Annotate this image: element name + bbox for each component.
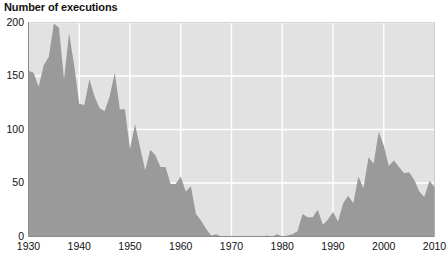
plot-svg <box>0 0 448 260</box>
x-axis-tick-label: 1950 <box>110 240 150 252</box>
x-axis-tick-label: 1940 <box>59 240 99 252</box>
y-axis-tick-label: 100 <box>0 123 24 135</box>
x-axis-tick-label: 1980 <box>262 240 302 252</box>
y-axis-tick-label: 50 <box>0 176 24 188</box>
x-axis-tick-label: 2000 <box>364 240 404 252</box>
x-axis-tick-label: 1990 <box>313 240 353 252</box>
x-axis-tick-label: 1930 <box>9 240 49 252</box>
x-axis-tick-label: 1960 <box>161 240 201 252</box>
executions-area-chart: Number of executions 0501001502001930194… <box>0 0 448 260</box>
y-axis-tick-label: 150 <box>0 69 24 81</box>
plot-area: 0501001502001930194019501960197019801990… <box>0 0 448 260</box>
y-axis-tick-label: 200 <box>0 16 24 28</box>
x-axis-tick-label: 2010 <box>415 240 448 252</box>
x-axis-tick-label: 1970 <box>212 240 252 252</box>
